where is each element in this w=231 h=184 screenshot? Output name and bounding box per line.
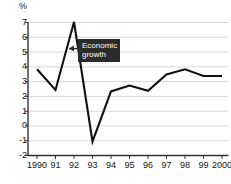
annotation-label-economic-growth: Economic growth — [78, 39, 120, 62]
annotation-line-2: growth — [82, 50, 117, 60]
economic-growth-line-chart: % -2-101234567 1990919293949596979899200… — [0, 0, 231, 184]
annotation-line-1: Economic — [82, 41, 117, 51]
axis-lines — [28, 22, 229, 156]
annotation-arrow — [69, 46, 78, 52]
plot-area — [0, 0, 231, 184]
